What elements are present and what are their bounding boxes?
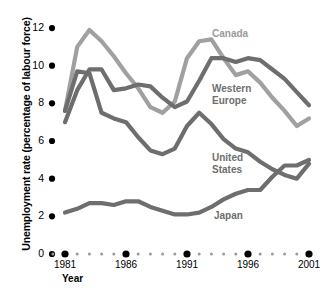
x-axis-tick-label: 1986 (106, 259, 146, 270)
x-axis-minor-tick-dot (76, 253, 79, 256)
x-axis-minor-tick-dot (149, 253, 152, 256)
series-label-united-states: United States (212, 152, 243, 175)
x-axis-tick-label: 1996 (228, 259, 268, 270)
x-axis-minor-tick-dot (283, 253, 286, 256)
x-axis-minor-tick-dot (198, 253, 201, 256)
y-axis-tick-dot (49, 25, 55, 31)
x-axis-major-tick-dot (244, 250, 251, 257)
x-axis-minor-tick-dot (234, 253, 237, 256)
x-axis-minor-tick-dot (210, 253, 213, 256)
y-axis-tick-dot (49, 176, 55, 182)
y-axis-tick-dot (49, 213, 55, 219)
y-axis-tick-label: 12 (24, 21, 44, 33)
series-label-canada: Canada (212, 28, 248, 40)
y-axis-tick-label: 10 (24, 59, 44, 71)
series-label-japan: Japan (214, 210, 243, 222)
x-axis-tick-label: 1991 (167, 259, 207, 270)
y-axis-tick-label: 6 (24, 134, 44, 146)
x-axis-tick-label: 2001 (289, 259, 329, 270)
series-lines (65, 30, 309, 215)
y-axis-tick-label: 2 (24, 209, 44, 221)
x-axis-major-tick-dot (61, 250, 68, 257)
x-axis-minor-tick-dot (173, 253, 176, 256)
x-axis-title: Year (62, 273, 83, 284)
x-axis-minor-tick-dot (271, 253, 274, 256)
x-axis-major-tick-dot (122, 250, 129, 257)
x-axis-minor-tick-dot (51, 253, 54, 256)
y-axis-tick-label: 8 (24, 96, 44, 108)
y-axis-tick-dot (49, 63, 55, 69)
chart-plot-area (0, 0, 333, 297)
x-axis-minor-tick-dot (100, 253, 103, 256)
x-axis-minor-tick-dot (88, 253, 91, 256)
x-axis-minor-tick-dot (137, 253, 140, 256)
x-axis-minor-tick-dot (112, 253, 115, 256)
x-axis-minor-tick-dot (161, 253, 164, 256)
series-label-western-europe: Western Europe (212, 83, 251, 106)
y-axis-tick-label: 4 (24, 172, 44, 184)
x-axis-major-tick-dot (305, 250, 312, 257)
y-axis-tick-label: 0 (24, 247, 44, 259)
x-axis-minor-tick-dot (259, 253, 262, 256)
y-axis-tick-dot (49, 138, 55, 144)
x-axis-major-tick-dot (183, 250, 190, 257)
unemployment-line-chart: Unemployment rate (percentage of labour … (0, 0, 333, 297)
x-axis-minor-tick-dot (222, 253, 225, 256)
x-axis-tick-label: 1981 (45, 259, 85, 270)
series-line-united-states (65, 71, 309, 178)
x-axis-minor-tick-dot (295, 253, 298, 256)
y-axis-tick-dot (49, 100, 55, 106)
